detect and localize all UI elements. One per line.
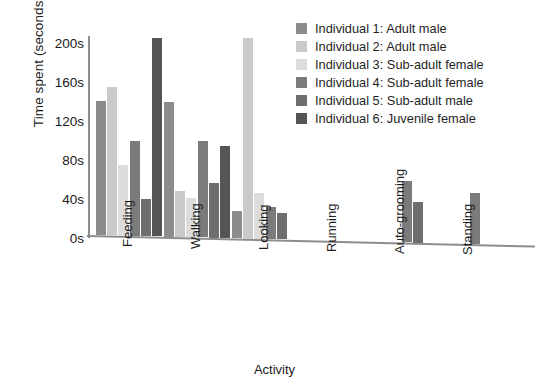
bar[interactable] — [152, 38, 162, 236]
bar[interactable] — [175, 191, 185, 237]
bar[interactable] — [243, 38, 253, 238]
y-tick-label: 200s — [38, 35, 84, 50]
legend-label: Individual 1: Adult male — [315, 21, 447, 36]
bar[interactable] — [277, 213, 287, 239]
legend-swatch-icon — [296, 95, 307, 106]
bar[interactable] — [413, 202, 423, 243]
legend-swatch-icon — [296, 23, 307, 34]
legend-label: Individual 4: Sub-adult female — [315, 75, 484, 90]
bar[interactable] — [107, 87, 117, 235]
bar-chart: Time spent (seconds) 0s40s80s120s160s200… — [0, 0, 549, 388]
y-tick-label: 80s — [38, 152, 84, 167]
bar[interactable] — [220, 146, 230, 238]
legend-item[interactable]: Individual 4: Sub-adult female — [296, 74, 484, 91]
y-tick-label: 120s — [38, 113, 84, 128]
y-axis-tick-labels: 0s40s80s120s160s200s — [22, 0, 84, 388]
bar[interactable] — [96, 101, 106, 235]
legend-item[interactable]: Individual 3: Sub-adult female — [296, 56, 484, 73]
x-tick-label: Running — [324, 203, 339, 251]
legend-label: Individual 3: Sub-adult female — [315, 57, 484, 72]
legend-item[interactable]: Individual 5: Sub-adult male — [296, 92, 484, 109]
legend-label: Individual 5: Sub-adult male — [315, 93, 473, 108]
bar[interactable] — [141, 199, 151, 236]
y-axis-line — [88, 36, 90, 238]
legend-item[interactable]: Individual 1: Adult male — [296, 20, 484, 37]
x-tick-label: Looking — [256, 205, 271, 251]
legend-label: Individual 6: Juvenile female — [315, 111, 476, 126]
legend-swatch-icon — [296, 59, 307, 70]
legend-swatch-icon — [296, 41, 307, 52]
chart-legend: Individual 1: Adult maleIndividual 2: Ad… — [296, 20, 484, 127]
x-tick-label: Walking — [188, 203, 203, 249]
bar[interactable] — [209, 183, 219, 238]
x-axis-title: Activity — [0, 362, 549, 377]
legend-swatch-icon — [296, 77, 307, 88]
legend-swatch-icon — [296, 113, 307, 124]
x-tick-label: Auto-grooming — [392, 168, 407, 253]
legend-item[interactable]: Individual 6: Juvenile female — [296, 110, 484, 127]
x-tick-label: Standing — [460, 204, 475, 255]
bar[interactable] — [164, 102, 174, 237]
y-tick-label: 0s — [38, 231, 84, 246]
y-tick-label: 40s — [38, 191, 84, 206]
legend-item[interactable]: Individual 2: Adult male — [296, 38, 484, 55]
bar[interactable] — [232, 211, 242, 238]
legend-label: Individual 2: Adult male — [315, 39, 447, 54]
y-tick-label: 160s — [38, 74, 84, 89]
x-tick-label: Feeding — [120, 200, 135, 247]
